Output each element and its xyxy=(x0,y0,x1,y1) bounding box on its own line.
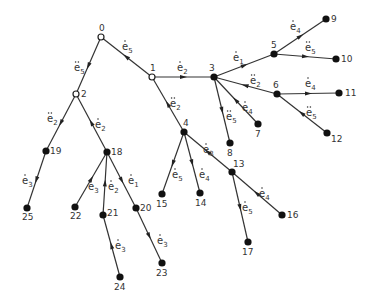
edge-label: e3 xyxy=(22,175,33,189)
edge-21-24: e3 xyxy=(103,215,126,277)
edge-label: e1 xyxy=(233,52,244,66)
node-10: 10 xyxy=(332,54,352,64)
edge-label: e5 xyxy=(226,111,237,125)
derivative-dot xyxy=(171,97,173,99)
node-label: 3 xyxy=(209,63,215,73)
edge-3-5: e1 xyxy=(214,51,274,77)
edge-label: e3 xyxy=(115,240,126,254)
filled-node-icon xyxy=(226,139,233,146)
edge-label: e4 xyxy=(199,169,210,183)
filled-node-icon xyxy=(103,148,110,155)
node-24: 24 xyxy=(114,273,126,292)
node-label: 15 xyxy=(156,199,167,209)
filled-node-icon xyxy=(332,55,339,62)
filled-node-icon xyxy=(270,50,277,57)
filled-node-icon xyxy=(116,273,123,280)
edge-label: e3 xyxy=(203,144,214,158)
edge-label: e2 xyxy=(95,119,106,133)
filled-node-icon xyxy=(180,128,187,135)
derivative-dot xyxy=(309,41,311,43)
edge-label: e2 xyxy=(177,62,188,76)
edge-label: e5 xyxy=(74,62,85,76)
derivative-dot xyxy=(230,110,232,112)
derivative-dot xyxy=(78,61,80,63)
derivative-dot xyxy=(307,77,309,79)
node-13: 13 xyxy=(228,159,244,176)
edge-5-10: e5 xyxy=(274,41,336,59)
edge-label: e5 xyxy=(305,42,316,56)
filled-node-icon xyxy=(335,89,342,96)
node-label: 9 xyxy=(331,14,337,24)
arrow-icon xyxy=(110,242,114,249)
derivative-dot xyxy=(24,174,26,176)
node-3: 3 xyxy=(209,63,218,81)
node-label: 25 xyxy=(22,212,33,222)
derivative-dot xyxy=(307,106,309,108)
edge-label: e2 xyxy=(108,181,119,195)
edge-4-14: e4 xyxy=(184,132,210,193)
derivative-dot xyxy=(292,20,294,22)
edge-6-11: e4 xyxy=(277,77,339,95)
node-2: 2 xyxy=(73,89,87,99)
edge-label: e4 xyxy=(242,102,253,116)
arrow-icon xyxy=(59,119,64,126)
derivative-dot xyxy=(254,74,256,76)
filled-node-icon xyxy=(244,238,251,245)
derivative-dot xyxy=(110,180,112,182)
edge-label: e2 xyxy=(47,113,58,127)
edge-18-21: e2 xyxy=(103,152,119,215)
filled-node-icon xyxy=(323,129,330,136)
filled-node-icon xyxy=(99,211,106,218)
derivative-dot xyxy=(235,51,237,53)
arrow-icon xyxy=(87,62,92,69)
derivative-dot xyxy=(130,174,132,176)
arrow-icon xyxy=(242,84,249,88)
arrow-icon xyxy=(90,119,95,126)
node-label: 10 xyxy=(341,54,353,64)
filled-node-icon xyxy=(322,15,329,22)
edge-13-17: e5 xyxy=(232,172,253,242)
node-label: 22 xyxy=(70,211,81,221)
edge-3-6: e2 xyxy=(214,74,277,94)
node-label: 14 xyxy=(195,198,207,208)
filled-node-icon xyxy=(71,203,78,210)
derivative-dot xyxy=(159,234,161,236)
arrow-icon xyxy=(237,204,241,211)
node-20: 20 xyxy=(132,203,151,213)
filled-node-icon xyxy=(132,204,139,211)
edge-0-2: e5 xyxy=(74,37,101,94)
node-14: 14 xyxy=(195,189,207,208)
edge-18-22: e3 xyxy=(75,152,107,207)
derivative-dot xyxy=(251,74,253,76)
derivative-dot xyxy=(90,180,92,182)
edge-20-23: e3 xyxy=(136,208,168,263)
filled-node-icon xyxy=(228,168,235,175)
edge-4-15: e5 xyxy=(162,132,184,194)
edge-6-12: e5 xyxy=(277,94,327,133)
node-19: 19 xyxy=(42,146,61,156)
derivative-dot xyxy=(97,118,99,120)
edge-19-25: e3 xyxy=(22,151,46,208)
derivative-dot xyxy=(306,41,308,43)
filled-node-icon xyxy=(273,90,280,97)
edge-label: e3 xyxy=(88,181,99,195)
derivative-dot xyxy=(261,187,263,189)
node-label: 12 xyxy=(331,134,342,144)
filled-node-icon xyxy=(278,211,285,218)
node-5: 5 xyxy=(270,40,277,58)
node-17: 17 xyxy=(242,238,253,257)
node-label: 2 xyxy=(81,89,87,99)
open-node-icon xyxy=(73,91,79,97)
edges-layer: e5e5e2e2e2e2e1e2e4e5e4e5e4e5e5e4e3e4e5e3… xyxy=(22,19,339,277)
filled-node-icon xyxy=(158,190,165,197)
arrow-icon xyxy=(118,176,123,183)
edge-label: e5 xyxy=(172,169,183,183)
edge-label: e4 xyxy=(305,78,316,92)
arrow-icon xyxy=(172,160,176,167)
node-22: 22 xyxy=(70,203,81,221)
node-label: 13 xyxy=(233,159,244,169)
node-label: 18 xyxy=(111,147,123,157)
edge-label: e5 xyxy=(306,107,317,121)
derivative-dot xyxy=(48,112,50,114)
node-label: 1 xyxy=(150,63,156,73)
